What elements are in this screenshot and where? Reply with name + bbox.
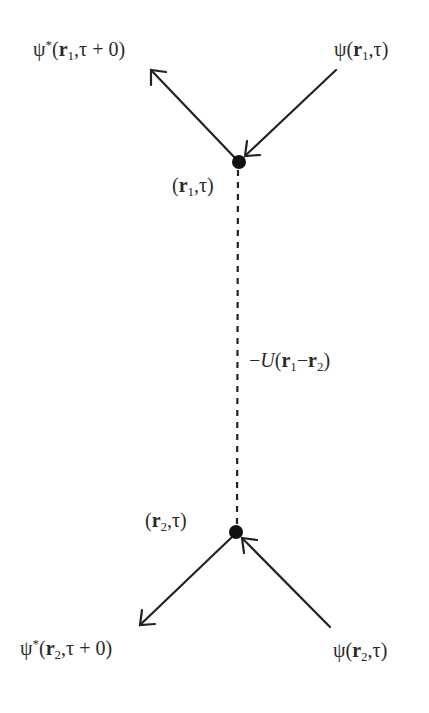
paren-open: (	[39, 637, 46, 659]
field-label-top-left: ψ*(r1,τ + 0)	[33, 38, 125, 60]
bottom-incoming-propagator	[242, 538, 330, 627]
psi-symbol: ψ	[334, 38, 347, 60]
interaction-line	[237, 170, 238, 524]
diagram-canvas	[0, 0, 429, 713]
paren-close: )	[323, 349, 330, 371]
position-vector: r	[46, 637, 55, 659]
time-argument: ,τ)	[167, 509, 187, 531]
top-outgoing-propagator	[151, 70, 236, 159]
vertex-label-top: (r1,τ)	[172, 174, 214, 196]
paren-open: (	[172, 174, 179, 196]
time-argument: ,τ + 0)	[61, 637, 112, 659]
paren-open: (	[52, 38, 59, 60]
time-argument: ,τ)	[368, 639, 388, 661]
vertex-dot-bottom	[229, 525, 243, 539]
position-vector: r	[352, 639, 361, 661]
position-vector-1: r	[281, 349, 290, 371]
time-argument: ,τ + 0)	[74, 38, 125, 60]
psi-symbol: ψ	[333, 639, 346, 661]
position-vector: r	[152, 509, 161, 531]
bottom-outgoing-propagator	[140, 537, 232, 625]
psi-symbol: ψ	[33, 38, 46, 60]
position-vector: r	[179, 174, 188, 196]
position-vector-2: r	[308, 349, 317, 371]
time-argument: ,τ)	[369, 38, 389, 60]
minus-operator: −	[297, 349, 308, 371]
top-incoming-propagator	[245, 70, 336, 156]
vertex-dot-top	[232, 155, 246, 169]
potential-symbol: U	[260, 349, 274, 371]
paren-open: (	[145, 509, 152, 531]
position-vector: r	[59, 38, 68, 60]
field-label-bottom-right: ψ(r2,τ)	[333, 639, 387, 661]
time-argument: ,τ)	[194, 174, 214, 196]
minus-sign: −	[249, 349, 260, 371]
vertex-label-bottom: (r2,τ)	[145, 509, 187, 531]
position-vector: r	[353, 38, 362, 60]
psi-symbol: ψ	[20, 637, 33, 659]
field-label-bottom-left: ψ*(r2,τ + 0)	[20, 637, 112, 659]
field-label-top-right: ψ(r1,τ)	[334, 38, 388, 60]
interaction-label: −U(r1−r2)	[249, 349, 330, 371]
